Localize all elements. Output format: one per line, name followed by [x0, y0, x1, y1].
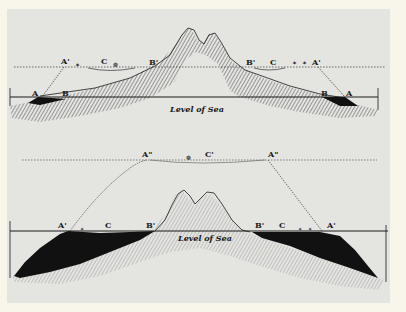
- label-C: C: [105, 220, 111, 230]
- label-A-prime: A': [311, 57, 321, 67]
- top-left-slope: [42, 67, 64, 97]
- label-A-prime: A': [57, 220, 67, 230]
- top-right-lake: [254, 68, 285, 70]
- plant-icon: ✶: [80, 226, 84, 232]
- sea-level-label: Level of Sea: [177, 233, 232, 243]
- plant-icon: ✶: [292, 59, 297, 66]
- bottom-cross-section: ✶ ❁ ✶ ✶ A" C' A" A' C B' B' C A' Level o…: [10, 149, 388, 290]
- label-A: A: [31, 88, 39, 98]
- label-C-prime: C': [205, 149, 214, 159]
- plant-icon: ❁: [113, 61, 118, 68]
- label-B: B: [321, 88, 328, 98]
- label-B-prime: B': [255, 220, 264, 230]
- bottom-upper-lake: [150, 160, 265, 163]
- label-B-prime: B': [146, 220, 155, 230]
- plant-icon: ✶: [308, 226, 312, 232]
- cross-section-diagram: ✶ ❁ ✶ ✶ A' C B' A B B' C A' B A Level of…: [0, 0, 406, 312]
- top-cross-section: ✶ ❁ ✶ ✶ A' C B' A B B' C A' B A Level of…: [10, 28, 385, 122]
- label-C: C: [279, 220, 285, 230]
- plant-icon: ✶: [298, 226, 302, 232]
- plant-icon: ✶: [75, 61, 80, 68]
- label-B-prime: B': [246, 57, 255, 67]
- label-A: A: [345, 88, 353, 98]
- label-B-prime: B': [149, 57, 158, 67]
- label-C: C: [270, 57, 276, 67]
- plant-icon: ❁: [186, 154, 191, 161]
- label-B: B: [62, 88, 69, 98]
- plant-icon: ✶: [302, 59, 307, 66]
- label-C: C: [101, 56, 107, 66]
- top-left-lake: [88, 68, 135, 71]
- label-A-double-prime: A": [141, 149, 152, 159]
- label-A-prime: A': [60, 56, 70, 66]
- bottom-right-slope: [268, 160, 322, 231]
- label-A-prime: A': [326, 220, 336, 230]
- sea-level-label: Level of Sea: [169, 104, 224, 114]
- label-A-double-prime: A": [267, 149, 278, 159]
